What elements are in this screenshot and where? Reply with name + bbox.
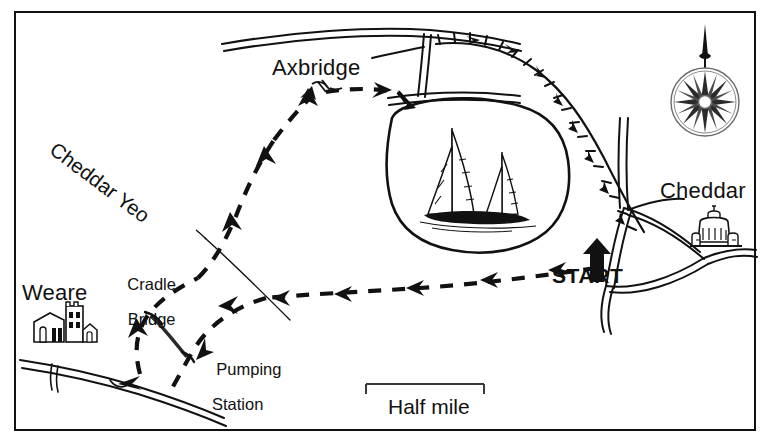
- sailboat-icon: [420, 128, 536, 232]
- road-network: [20, 29, 757, 426]
- church-icon-weare: [34, 302, 97, 342]
- label-axbridge: Axbridge: [272, 56, 360, 79]
- label-cradle-bridge-line1: Cradle: [127, 275, 176, 293]
- label-weare: Weare: [22, 281, 87, 304]
- scale-bar: [366, 384, 484, 394]
- label-cradle-bridge-line2: Bridge: [128, 310, 176, 328]
- route-direction-arrows: [118, 82, 566, 390]
- label-pumping-station-line2: Station: [198, 396, 281, 413]
- label-cheddar: Cheddar: [660, 179, 746, 202]
- label-pumping-station-line1: Pumping: [216, 360, 281, 378]
- compass-rose: [671, 24, 739, 136]
- church-icon-cheddar: [690, 206, 742, 246]
- label-start: START: [552, 265, 623, 287]
- reservoir-outline: [387, 98, 569, 252]
- label-scale-caption: Half mile: [388, 396, 470, 418]
- river-leader-line: [196, 230, 206, 239]
- map-canvas: Axbridge Cheddar Weare Cradle Bridge Pum…: [0, 0, 770, 444]
- label-cradle-bridge: Cradle Bridge: [109, 259, 176, 346]
- label-pumping-station: Pumping Station: [198, 344, 281, 444]
- map-drawing: [0, 0, 770, 444]
